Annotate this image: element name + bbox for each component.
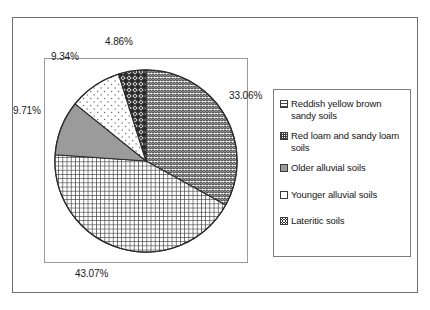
legend-swatch-icon [280,164,288,172]
legend-item-label: Older alluvial soils [291,162,366,174]
legend-swatch-icon [280,191,288,199]
legend-item-reddish-yellow-brown-sandy-soils[interactable]: Reddish yellow brown sandy soils [280,98,404,121]
legend-item-label: Lateritic soils [291,215,344,227]
pie-label-older-alluvial: 9.71% [13,105,41,117]
legend-item-label: Younger alluvial soils [291,189,377,201]
pie-chart[interactable] [54,69,238,253]
legend-swatch-icon [280,217,288,225]
pie-label-younger-alluvial: 9.34% [51,51,79,63]
legend-swatch-icon [280,132,288,140]
legend-item-red-loam-and-sandy-loam-soils[interactable]: Red loam and sandy loam soils [280,130,404,153]
legend-item-older-alluvial-soils[interactable]: Older alluvial soils [280,162,404,174]
legend-item-label: Red loam and sandy loam soils [291,130,404,153]
legend-item-lateritic-soils[interactable]: Lateritic soils [280,215,404,227]
pie-label-reddish-yellow-brown: 33.06% [229,90,262,102]
legend-item-younger-alluvial-soils[interactable]: Younger alluvial soils [280,189,404,201]
pie-slices [55,70,237,252]
legend-swatch-icon [280,100,288,108]
legend-item-label: Reddish yellow brown sandy soils [291,98,404,121]
chart-legend: Reddish yellow brown sandy soils Red loa… [273,89,411,257]
pie-label-lateritic: 4.86% [105,36,133,48]
chart-frame: 4.86% 9.34% 9.71% 33.06% 43.07% Reddish … [12,17,418,293]
pie-label-red-loam: 43.07% [75,268,108,280]
